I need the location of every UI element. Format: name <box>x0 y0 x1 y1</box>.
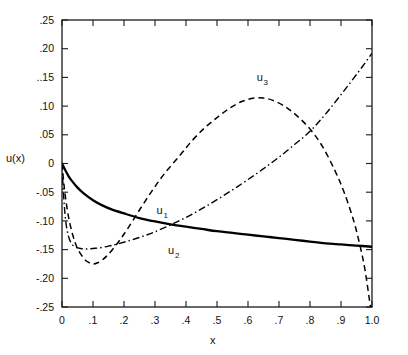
x-tick-label: .1 <box>89 314 98 326</box>
x-tick-label: .6 <box>244 314 253 326</box>
x-axis-ticks: 0.1.2.3.4.5.6.7.8.91.0 <box>59 20 379 326</box>
x-tick-label: .9 <box>337 314 346 326</box>
curve-u_2 <box>62 53 372 249</box>
y-tick-label: .05 <box>39 128 54 140</box>
curve-label-u_3: u <box>257 71 263 83</box>
curve-annotations: u1u2u3 <box>157 71 269 260</box>
curve-u_1 <box>62 164 372 247</box>
x-tick-label: .8 <box>306 314 315 326</box>
y-axis-ticks: .25.20..15.10.050-.05-.10-.15-.20-.25 <box>36 14 372 313</box>
curve-label-sub-u_3: 3 <box>264 78 269 87</box>
plot-area: .25.20..15.10.050-.05-.10-.15-.20-.25 0.… <box>0 0 408 355</box>
y-tick-label: .25 <box>39 14 54 26</box>
chart-figure: .25.20..15.10.050-.05-.10-.15-.20-.25 0.… <box>0 0 408 355</box>
y-tick-label: -.10 <box>36 215 54 227</box>
y-tick-label: -.15 <box>36 243 54 255</box>
curve-label-sub-u_1: 1 <box>163 211 168 220</box>
x-tick-label: 0 <box>59 314 65 326</box>
x-tick-label: .2 <box>120 314 129 326</box>
y-tick-label: 0 <box>48 157 54 169</box>
y-tick-label: .10 <box>39 100 54 112</box>
y-tick-label: -.25 <box>36 301 54 313</box>
y-tick-label: -.20 <box>36 272 54 284</box>
data-curves <box>62 53 372 307</box>
x-tick-label: .4 <box>182 314 191 326</box>
y-tick-label: -.05 <box>36 186 54 198</box>
plot-frame <box>62 20 372 307</box>
x-tick-label: .5 <box>213 314 222 326</box>
x-tick-label: .7 <box>275 314 284 326</box>
x-tick-label: 1.0 <box>365 314 380 326</box>
curve-u_3 <box>62 98 370 307</box>
curve-label-u_1: u <box>157 204 163 216</box>
y-tick-label: .20 <box>39 42 54 54</box>
x-tick-label: .3 <box>151 314 160 326</box>
y-tick-label: ..15 <box>36 71 54 83</box>
y-axis-label: u(x) <box>6 152 25 164</box>
x-axis-label: x <box>210 334 216 346</box>
curve-label-sub-u_2: 2 <box>175 251 180 260</box>
curve-label-u_2: u <box>168 244 174 256</box>
